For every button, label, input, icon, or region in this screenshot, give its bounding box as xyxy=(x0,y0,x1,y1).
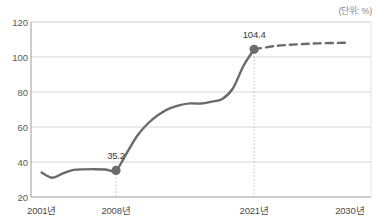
line-chart: (단위: %) 20406080100120 2001년2008년2021년20… xyxy=(0,0,378,224)
y-tick-label: 80 xyxy=(4,87,28,98)
x-tick-label: 2008년 xyxy=(101,203,130,217)
x-tick-label: 2001년 xyxy=(27,203,56,217)
annotation-vertical-lines xyxy=(116,49,254,197)
axis-frame xyxy=(31,22,371,197)
x-tick-label: 2030년 xyxy=(335,203,364,217)
y-tick-label: 100 xyxy=(4,52,28,63)
series-line xyxy=(254,43,350,50)
y-tick-label: 20 xyxy=(4,192,28,203)
plot-area xyxy=(0,0,378,224)
x-tick-label: 2021년 xyxy=(240,203,269,217)
unit-note: (단위: %) xyxy=(338,4,372,17)
data-point-markers xyxy=(111,45,258,175)
y-axis-tick-labels: 20406080100120 xyxy=(0,0,28,224)
data-point-label: 35.2 xyxy=(107,150,125,161)
y-tick-label: 120 xyxy=(4,17,28,28)
series-lines xyxy=(42,43,350,178)
y-tick-label: 60 xyxy=(4,122,28,133)
data-point-label: 104.4 xyxy=(243,29,266,40)
data-point-marker[interactable] xyxy=(111,166,120,175)
data-point-marker[interactable] xyxy=(250,45,259,54)
series-line xyxy=(42,49,255,177)
y-tick-label: 40 xyxy=(4,157,28,168)
